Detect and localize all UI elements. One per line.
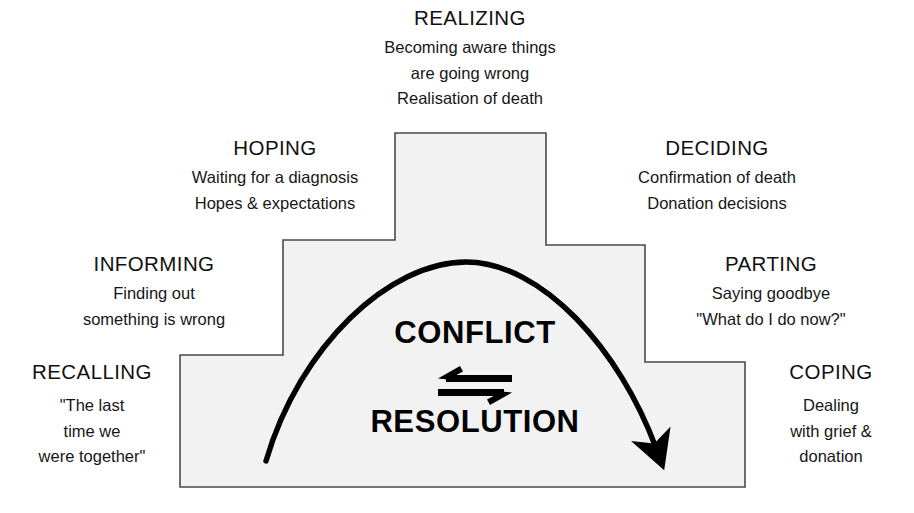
stage-label-deciding: DECIDING Confirmation of death Donation … (592, 136, 842, 216)
stage-label-hoping: HOPING Waiting for a diagnosis Hopes & e… (150, 136, 400, 216)
stage-desc-recalling-line-1: "The last (8, 393, 176, 419)
stage-title-deciding: DECIDING (592, 136, 842, 160)
stage-desc-realizing-line-3: Realisation of death (310, 86, 630, 112)
stage-desc-deciding-line-2: Donation decisions (592, 191, 842, 217)
stage-desc-informing-line-2: something is wrong (38, 307, 270, 333)
stage-label-parting: PARTING Saying goodbye "What do I do now… (655, 252, 887, 332)
stage-label-informing: INFORMING Finding out something is wrong (38, 252, 270, 332)
stage-desc-deciding-line-1: Confirmation of death (592, 165, 842, 191)
stage-title-hoping: HOPING (150, 136, 400, 160)
stage-desc-realizing-line-2: are going wrong (310, 61, 630, 87)
diagram-canvas: REALIZING Becoming aware things are goin… (0, 0, 914, 513)
stage-desc-realizing-line-1: Becoming aware things (310, 35, 630, 61)
stage-desc-coping-line-2: with grief & (752, 419, 910, 445)
stage-title-recalling: RECALLING (8, 360, 176, 384)
stage-label-realizing: REALIZING Becoming aware things are goin… (310, 6, 630, 112)
stage-desc-recalling-line-2: time we (8, 419, 176, 445)
stage-title-informing: INFORMING (38, 252, 270, 276)
stage-desc-informing-line-1: Finding out (38, 281, 270, 307)
stage-label-coping: COPING Dealing with grief & donation (752, 360, 910, 470)
core-label-resolution: RESOLUTION (330, 404, 620, 440)
stage-desc-hoping-line-2: Hopes & expectations (150, 191, 400, 217)
stage-desc-coping-line-1: Dealing (752, 393, 910, 419)
stage-desc-parting-line-1: Saying goodbye (655, 281, 887, 307)
stage-desc-parting-line-2: "What do I do now?" (655, 307, 887, 333)
stage-label-recalling: RECALLING "The last time we were togethe… (8, 360, 176, 470)
stage-desc-coping-line-3: donation (752, 444, 910, 470)
stage-title-coping: COPING (752, 360, 910, 384)
stage-title-realizing: REALIZING (310, 6, 630, 30)
core-label-conflict: CONFLICT (345, 315, 605, 351)
stage-desc-recalling-line-3: were together" (8, 444, 176, 470)
stage-desc-hoping-line-1: Waiting for a diagnosis (150, 165, 400, 191)
stage-title-parting: PARTING (655, 252, 887, 276)
